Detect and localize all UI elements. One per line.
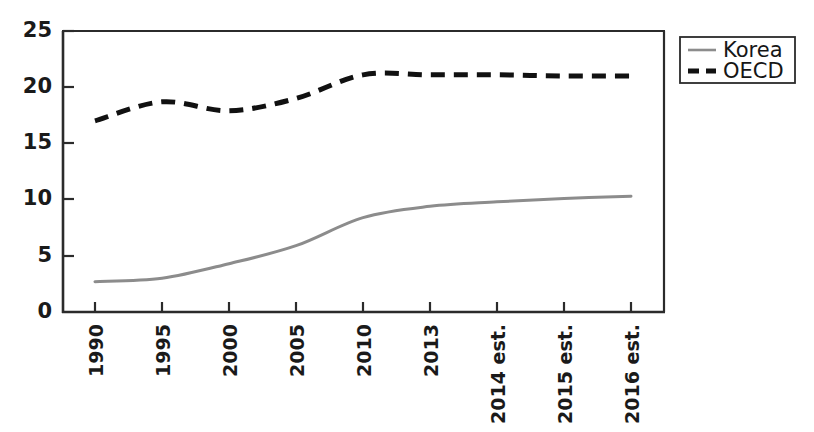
x-axis-label-2016-est: 2016 est. bbox=[621, 324, 643, 424]
y-axis-tick-labels: 25 20 15 10 5 0 bbox=[23, 18, 52, 323]
x-axis-label-1995: 1995 bbox=[152, 324, 174, 377]
x-axis-tick-labels: 1990 1995 2000 2005 2010 2013 2014 est. … bbox=[85, 324, 643, 424]
y-axis-label-15: 15 bbox=[23, 130, 52, 154]
x-axis-label-2013: 2013 bbox=[420, 324, 442, 377]
series-group bbox=[95, 73, 631, 282]
legend: Korea OECD bbox=[680, 37, 795, 83]
x-axis-label-2010: 2010 bbox=[353, 324, 375, 377]
y-axis-label-0: 0 bbox=[37, 299, 52, 323]
chart-canvas: 25 20 15 10 5 0 1990 1995 2000 2005 2010 bbox=[0, 0, 814, 432]
y-axis-label-5: 5 bbox=[37, 243, 52, 267]
line-chart: 25 20 15 10 5 0 1990 1995 2000 2005 2010 bbox=[0, 0, 814, 432]
series-line-korea bbox=[95, 196, 631, 281]
x-axis-label-2015-est: 2015 est. bbox=[554, 324, 576, 424]
legend-label-oecd: OECD bbox=[723, 59, 784, 83]
x-axis-label-2005: 2005 bbox=[286, 324, 308, 377]
x-axis-label-1990: 1990 bbox=[85, 324, 107, 377]
x-axis-label-2000: 2000 bbox=[219, 324, 241, 377]
x-axis-label-2014-est: 2014 est. bbox=[487, 324, 509, 424]
x-axis-ticks bbox=[95, 302, 631, 312]
y-axis-label-25: 25 bbox=[23, 18, 52, 42]
y-axis-label-10: 10 bbox=[23, 186, 52, 210]
series-line-oecd bbox=[95, 73, 631, 121]
y-axis-ticks bbox=[63, 31, 74, 256]
y-axis-label-20: 20 bbox=[23, 74, 52, 98]
